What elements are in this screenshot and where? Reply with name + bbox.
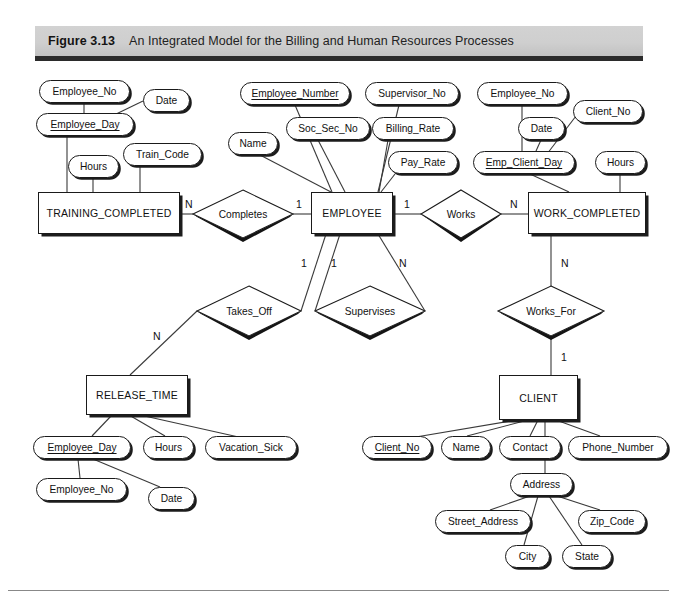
attribute-cl_street_address[interactable]: Street_Address (435, 510, 531, 533)
attribute-wc_employee_no[interactable]: Employee_No (477, 82, 568, 105)
attribute-label: Street_Address (448, 516, 518, 527)
attribute-label: Employee_Number (251, 88, 338, 99)
attribute-label: Supervisor_No (378, 88, 445, 99)
attribute-label: Employee_No (491, 88, 555, 99)
attribute-rt_hours[interactable]: Hours (143, 436, 194, 459)
connector-line (78, 459, 80, 478)
attribute-label: Vacation_Sick (219, 442, 283, 453)
connector-line (467, 420, 528, 436)
connector-line (530, 174, 569, 192)
attribute-emp_billing_rate[interactable]: Billing_Rate (372, 117, 454, 140)
figure-page: Figure 3.13 An Integrated Model for the … (0, 0, 677, 603)
attribute-rt_employee_no[interactable]: Employee_No (36, 478, 127, 501)
diamond-shape (498, 286, 610, 342)
attribute-rt_date[interactable]: Date (148, 487, 195, 510)
attribute-cl_phone_number[interactable]: Phone_Number (568, 436, 668, 459)
connector-line (318, 140, 345, 192)
entity-work_completed[interactable]: WORK_COMPLETED (528, 192, 646, 234)
cardinality-card-wc-worksfor: N (561, 257, 569, 269)
attribute-tc_hours[interactable]: Hours (68, 155, 119, 178)
attribute-label: Employee_No (53, 86, 117, 97)
connector-line (130, 311, 197, 375)
attribute-wc_client_no[interactable]: Client_No (573, 100, 643, 123)
attribute-label: Hours (155, 442, 182, 453)
attribute-emp_employee_number[interactable]: Employee_Number (240, 82, 350, 105)
attribute-tc_date[interactable]: Date (143, 89, 190, 112)
entity-label: WORK_COMPLETED (534, 207, 641, 219)
attribute-cl_name[interactable]: Name (441, 436, 491, 459)
attribute-label: Employee_Day (47, 442, 116, 453)
connector-line (92, 415, 112, 436)
cardinality-card-emp-takesoff: 1 (301, 257, 307, 269)
diamond-shape (315, 286, 431, 342)
attribute-emp_name[interactable]: Name (228, 132, 278, 155)
cardinality-card-takesoff-rt: N (153, 330, 161, 342)
attribute-label: Client_No (375, 442, 420, 453)
relationship-works_for[interactable]: Works_For (498, 286, 604, 336)
attribute-cl_city[interactable]: City (505, 545, 550, 568)
attribute-cl_state[interactable]: State (562, 545, 612, 568)
attribute-cl_client_no[interactable]: Client_No (362, 436, 432, 459)
attribute-label: Date (531, 123, 553, 134)
diamond-shape (421, 190, 507, 244)
cardinality-card-completes-emp: 1 (296, 198, 302, 210)
attribute-emp_soc_sec_no[interactable]: Soc_Sec_No (286, 117, 370, 140)
attribute-label: Name (239, 138, 266, 149)
attribute-emp_supervisor_no[interactable]: Supervisor_No (365, 82, 459, 105)
entity-training_completed[interactable]: TRAINING_COMPLETED (38, 192, 180, 234)
entity-client[interactable]: CLIENT (499, 375, 578, 420)
connector-line (536, 140, 541, 151)
entity-label: CLIENT (519, 392, 558, 404)
diamond-shape (193, 190, 299, 244)
attribute-label: Phone_Number (582, 442, 653, 453)
attribute-rt_vacation_sick[interactable]: Vacation_Sick (205, 436, 297, 459)
attribute-rt_employee_day[interactable]: Employee_Day (33, 436, 131, 459)
attribute-cl_contact[interactable]: Contact (499, 436, 561, 459)
entity-label: RELEASE_TIME (96, 389, 178, 401)
attribute-label: Date (156, 95, 178, 106)
attribute-label: Contact (512, 442, 547, 453)
attribute-cl_zip_code[interactable]: Zip_Code (578, 510, 646, 533)
relationship-supervises[interactable]: Supervises (315, 286, 425, 336)
attribute-label: State (575, 551, 599, 562)
entity-label: EMPLOYEE (322, 207, 381, 219)
attribute-emp_pay_rate[interactable]: Pay_Rate (388, 151, 458, 174)
attribute-label: City (519, 551, 537, 562)
attribute-label: Address (523, 479, 560, 490)
attribute-tc_employee_no[interactable]: Employee_No (39, 80, 130, 103)
attribute-label: Soc_Sec_No (298, 123, 357, 134)
relationship-completes[interactable]: Completes (193, 190, 293, 238)
connector-line (556, 420, 600, 436)
entity-employee[interactable]: EMPLOYEE (311, 192, 393, 234)
relationship-works[interactable]: Works (421, 190, 501, 238)
cardinality-card-emp-supervises-n: N (399, 257, 407, 269)
attribute-label: Client_No (586, 106, 631, 117)
attribute-label: Zip_Code (590, 516, 634, 527)
attribute-wc_emp_client_day[interactable]: Emp_Client_Day (473, 151, 575, 174)
attribute-wc_date[interactable]: Date (518, 117, 565, 140)
cardinality-card-tc-completes: N (185, 198, 193, 210)
attribute-wc_hours[interactable]: Hours (595, 151, 646, 174)
connector-line (530, 420, 538, 436)
connector-line (557, 496, 600, 510)
attribute-label: Emp_Client_Day (486, 157, 562, 168)
attribute-tc_employee_day[interactable]: Employee_Day (36, 113, 134, 136)
connector-line (140, 415, 243, 438)
relationship-takes_off[interactable]: Takes_Off (197, 286, 301, 336)
attribute-label: Hours (607, 157, 634, 168)
attribute-cl_address[interactable]: Address (510, 473, 573, 496)
connector-line (490, 496, 530, 510)
entity-release_time[interactable]: RELEASE_TIME (86, 375, 188, 415)
attribute-label: Billing_Rate (386, 123, 440, 134)
attribute-label: Pay_Rate (401, 157, 446, 168)
attribute-label: Hours (80, 161, 107, 172)
cardinality-card-worksfor-client: 1 (561, 351, 567, 363)
entity-label: TRAINING_COMPLETED (47, 207, 172, 219)
attribute-label: Employee_Day (50, 119, 119, 130)
attribute-label: Train_Code (136, 149, 189, 160)
attribute-tc_train_code[interactable]: Train_Code (123, 143, 202, 166)
connector-line (260, 155, 331, 192)
connector-line (381, 174, 395, 192)
cardinality-card-emp-works: 1 (404, 198, 410, 210)
cardinality-card-emp-supervises-1: 1 (331, 257, 337, 269)
